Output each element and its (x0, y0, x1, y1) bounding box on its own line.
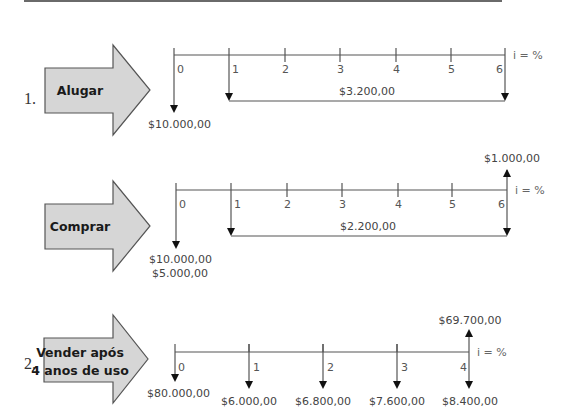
timeline-ticks (175, 344, 397, 352)
period-label: 0 (178, 361, 185, 374)
option-label: Alugar (57, 83, 104, 98)
period-label: 4 (393, 63, 400, 76)
arrowhead-down-icon (171, 374, 179, 382)
arrowhead-down-icon (319, 381, 327, 389)
period-label: 6 (496, 63, 503, 76)
arrowhead-down-icon (172, 241, 180, 249)
period-label: 0 (177, 63, 184, 76)
arrowhead-down-icon (227, 228, 235, 236)
period-label: 5 (448, 63, 455, 76)
outflow-label: $6.000,00 (221, 395, 277, 408)
period-label: 4 (460, 361, 467, 374)
outflow-label: $80.000,00 (147, 387, 210, 400)
arrowhead-up-icon (465, 329, 473, 337)
period-label: 5 (449, 198, 456, 211)
rate-label: i = % (477, 346, 507, 359)
period-label: 1 (253, 361, 260, 374)
rate-label: i = % (515, 184, 545, 197)
arrowhead-down-icon (501, 93, 509, 101)
period-label: 6 (498, 198, 505, 211)
option-label: Comprar (50, 219, 111, 234)
arrowhead-down-icon (503, 228, 511, 236)
period-label: 3 (337, 63, 344, 76)
option-label-line2: 4 anos de uso (31, 363, 129, 378)
arrowhead-down-icon (465, 381, 473, 389)
outflow-label: $6.800,00 (295, 395, 351, 408)
item-number: 1. (24, 90, 36, 107)
inflow-label: $1.000,00 (484, 152, 540, 165)
period-label: 0 (179, 198, 186, 211)
option-label-line1: Vender após (36, 345, 124, 360)
outflow-label: $8.400,00 (442, 395, 498, 408)
arrowhead-up-icon (503, 169, 511, 177)
period-label: 3 (339, 198, 346, 211)
diagram-comprar: Comprar 0 1 2 3 4 5 6 i = % $10.000,00 $… (45, 152, 545, 280)
period-label: 2 (284, 198, 291, 211)
outflow-label: $10.000,00 (148, 118, 211, 131)
arrowhead-down-icon (393, 381, 401, 389)
outflow-label: $7.600,00 (369, 395, 425, 408)
period-label: 1 (232, 63, 239, 76)
diagram-alugar: 1. Alugar 0 1 2 3 4 5 6 i = % $10.000,00 (24, 45, 543, 135)
arrowhead-down-icon (225, 93, 233, 101)
rate-label: i = % (513, 49, 543, 62)
period-label: 2 (282, 63, 289, 76)
period-label: 2 (327, 361, 334, 374)
series-label: $3.200,00 (339, 85, 395, 98)
diagram-vender: 2. Vender após 4 anos de uso 0 1 2 3 4 i… (24, 314, 507, 408)
arrowhead-down-icon (170, 105, 178, 113)
outflow-label-line1: $10.000,00 (149, 253, 212, 266)
arrowhead-down-icon (245, 381, 253, 389)
outflow-label-line2: $5.000,00 (152, 267, 208, 280)
period-label: 1 (234, 198, 241, 211)
cash-flow-diagrams: 1. Alugar 0 1 2 3 4 5 6 i = % $10.000,00 (0, 0, 563, 418)
period-label: 3 (401, 361, 408, 374)
period-label: 4 (395, 198, 402, 211)
inflow-label: $69.700,00 (439, 314, 502, 327)
series-label: $2.200,00 (340, 220, 396, 233)
